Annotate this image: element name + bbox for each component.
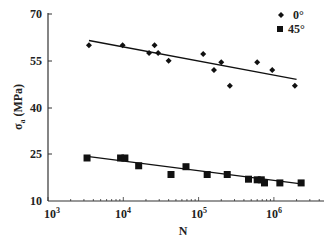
square-marker-icon xyxy=(168,171,175,178)
diamond-marker-icon xyxy=(269,67,275,73)
diamond-marker-icon xyxy=(211,67,217,73)
square-marker-icon xyxy=(298,179,305,186)
y-tick-25: 25 xyxy=(30,147,42,161)
x-tick-1e6: 106 xyxy=(266,206,282,221)
x-tick-1e3: 103 xyxy=(44,206,60,221)
square-marker-icon xyxy=(204,171,211,178)
square-marker-icon xyxy=(261,179,268,186)
legend-item-0deg: 0° xyxy=(278,8,304,22)
x-tick-1e5: 105 xyxy=(191,206,207,221)
diamond-marker-icon xyxy=(254,59,260,65)
y-tick-40: 40 xyxy=(30,101,42,115)
x-tick-1e4: 104 xyxy=(115,206,131,221)
series-0deg xyxy=(86,40,298,88)
y-tick-70: 70 xyxy=(30,7,42,21)
legend: 0° 45° xyxy=(277,8,305,36)
legend-item-45deg: 45° xyxy=(277,22,305,36)
diamond-marker-icon xyxy=(155,50,161,56)
y-axis-title: σa(MPa) xyxy=(11,84,27,130)
square-marker-icon xyxy=(121,154,128,161)
diamond-marker-icon xyxy=(278,12,284,18)
diamond-marker-icon xyxy=(152,42,158,48)
square-marker-icon xyxy=(135,162,142,169)
legend-label-45deg: 45° xyxy=(288,22,305,36)
diamond-marker-icon xyxy=(227,83,233,89)
diamond-marker-icon xyxy=(86,42,92,48)
y-tick-10: 10 xyxy=(30,194,42,208)
x-tick-labels: 103 104 105 106 xyxy=(44,206,282,221)
square-marker-icon xyxy=(84,154,91,161)
y-tick-55: 55 xyxy=(30,54,42,68)
legend-label-0deg: 0° xyxy=(293,8,304,22)
trendline xyxy=(89,40,297,79)
square-marker-icon xyxy=(182,163,189,170)
diamond-marker-icon xyxy=(166,58,172,64)
fatigue-chart: 70 55 40 25 10 103 104 105 106 N σa(MPa)… xyxy=(0,0,334,242)
square-marker-icon xyxy=(277,26,283,32)
square-marker-icon xyxy=(276,179,283,186)
x-axis-title: N xyxy=(179,224,188,238)
square-marker-icon xyxy=(224,171,231,178)
diamond-marker-icon xyxy=(292,83,298,89)
y-tick-labels: 70 55 40 25 10 xyxy=(30,7,42,208)
square-marker-icon xyxy=(245,176,252,183)
series-45deg xyxy=(84,154,305,186)
diamond-marker-icon xyxy=(200,51,206,57)
